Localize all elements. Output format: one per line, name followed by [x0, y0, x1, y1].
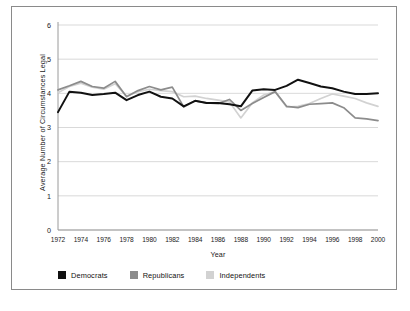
y-tick-label-1: 1: [37, 192, 51, 201]
x-tick-label-2000: 2000: [365, 236, 391, 243]
legend-label: Democrats: [71, 271, 108, 280]
chart-figure: Average Number of Circumstances Legal Ye…: [0, 0, 410, 311]
legend-label: Independents: [219, 271, 265, 280]
chart-legend: DemocratsRepublicansIndependents: [58, 269, 287, 281]
legend-swatch-icon-republicans: [130, 271, 138, 279]
x-axis-title: Year: [58, 250, 378, 259]
series-line-democrats: [58, 80, 378, 112]
legend-item-democrats[interactable]: Democrats: [58, 271, 108, 280]
y-tick-label-5: 5: [37, 55, 51, 64]
legend-item-republicans[interactable]: Republicans: [130, 271, 185, 280]
y-tick-label-2: 2: [37, 157, 51, 166]
line-chart-plot: [0, 0, 410, 311]
legend-item-independents[interactable]: Independents: [206, 271, 265, 280]
y-tick-label-6: 6: [37, 21, 51, 30]
y-tick-label-3: 3: [37, 123, 51, 132]
legend-swatch-icon-democrats: [58, 271, 66, 279]
legend-label: Republicans: [143, 271, 185, 280]
legend-swatch-icon-independents: [206, 271, 214, 279]
y-tick-label-0: 0: [37, 226, 51, 235]
y-tick-label-4: 4: [37, 89, 51, 98]
